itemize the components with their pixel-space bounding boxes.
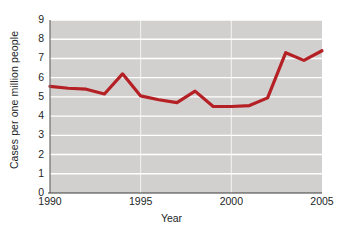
plot-background — [50, 20, 322, 193]
y-axis-title: Cases per one million people — [8, 31, 20, 169]
y-axis-tick-label: 2 — [28, 149, 44, 160]
y-axis-tick-label: 8 — [28, 33, 44, 44]
y-axis-tick-label: 3 — [28, 129, 44, 140]
x-axis-title: Year — [0, 212, 343, 224]
y-axis-tick-label: 7 — [28, 52, 44, 63]
x-axis-tick-label: 2005 — [302, 196, 342, 207]
y-axis-tick-label: 5 — [28, 91, 44, 102]
y-axis-tick-label: 4 — [28, 110, 44, 121]
y-axis-tick-label: 1 — [28, 168, 44, 179]
x-axis-tick-label: 1995 — [121, 196, 161, 207]
x-axis-tick-label: 2000 — [211, 196, 251, 207]
y-axis-tick-label: 9 — [28, 14, 44, 25]
y-axis-title-container: Cases per one million people — [2, 0, 26, 200]
line-chart: Cases per one million people Year 012345… — [0, 0, 343, 241]
x-axis-tick-label: 1990 — [30, 196, 70, 207]
y-axis-tick-label: 6 — [28, 72, 44, 83]
